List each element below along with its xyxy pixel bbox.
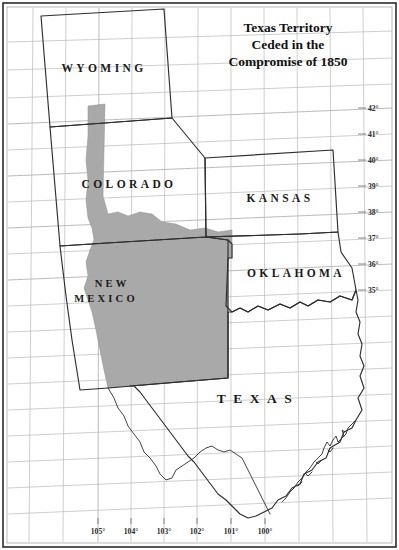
latitude-label-42: 42° xyxy=(368,104,379,113)
state-label-kansas: KANSAS xyxy=(246,192,313,204)
map-title-line-2: Ceded in the xyxy=(252,37,325,52)
latitude-label-36: 36° xyxy=(368,260,379,269)
longitude-label-105: 105° xyxy=(91,527,105,536)
state-label-oklahoma: OKLAHOMA xyxy=(247,267,345,279)
latitude-label-40: 40° xyxy=(368,156,379,165)
latitude-label-39: 39° xyxy=(368,182,379,191)
state-label-new-mexico-line-1: NEW xyxy=(95,278,130,289)
state-label-new-mexico-line-2: MEXICO xyxy=(74,293,138,304)
latitude-label-41: 41° xyxy=(368,130,379,139)
state-label-texas: TEXAS xyxy=(217,391,300,406)
longitude-label-104: 104° xyxy=(124,527,138,536)
longitude-label-102: 102° xyxy=(190,527,204,536)
state-label-wyoming: WYOMING xyxy=(61,62,146,74)
map-container: Texas Territory Ceded in the Compromise … xyxy=(0,0,399,550)
longitude-label-101: 101° xyxy=(224,527,238,536)
longitude-label-103: 103° xyxy=(157,527,171,536)
latitude-label-38: 38° xyxy=(368,208,379,217)
map-title-line-3: Compromise of 1850 xyxy=(229,54,348,69)
longitude-label-100: 100° xyxy=(258,527,272,536)
latitude-label-35: 35° xyxy=(368,286,379,295)
latitude-label-37: 37° xyxy=(368,234,379,243)
map-title-line-1: Texas Territory xyxy=(243,20,332,35)
state-label-colorado: COLORADO xyxy=(82,178,177,190)
historical-map-figure: Texas Territory Ceded in the Compromise … xyxy=(0,0,399,550)
